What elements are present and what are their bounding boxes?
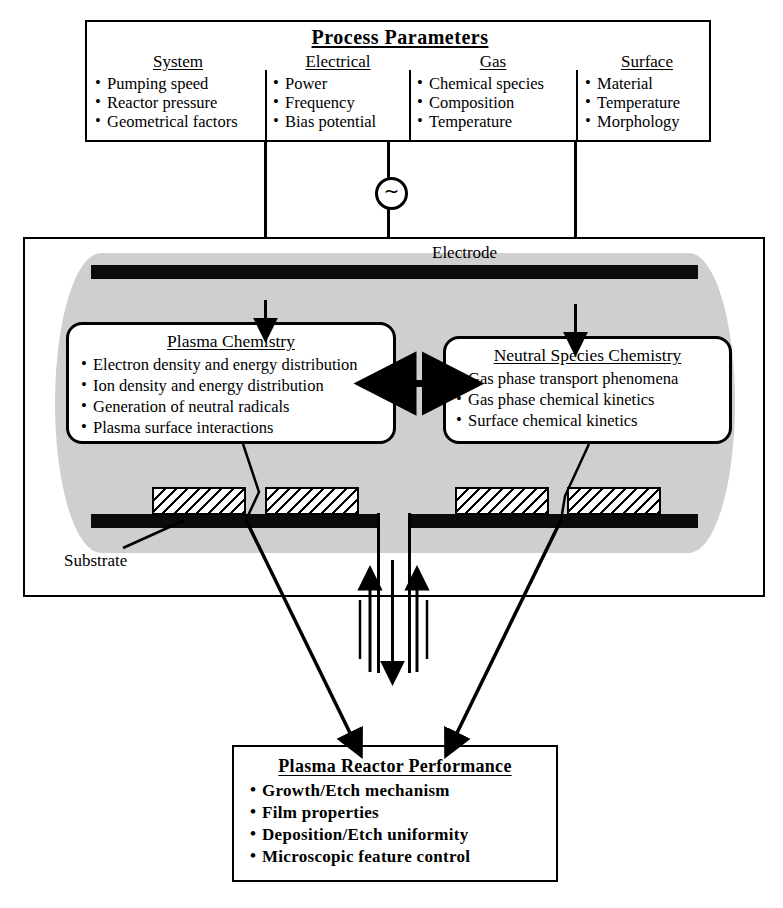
list-item: Temperature xyxy=(585,93,709,112)
list-item: Chemical species xyxy=(417,74,569,93)
pp-divider-3 xyxy=(576,70,578,142)
pp-column-heading: System xyxy=(95,52,261,72)
list-item: Electron density and energy distribution xyxy=(81,354,393,375)
pp-column-list: Chemical species Composition Temperature xyxy=(417,74,569,131)
gas-flow-up-arrow-right xyxy=(417,586,427,672)
process-parameters-title: Process Parameters xyxy=(87,26,713,49)
list-item: Geometrical factors xyxy=(95,112,261,131)
list-item: Morphology xyxy=(585,112,709,131)
bottom-electrode-left xyxy=(91,514,377,528)
list-item: Temperature xyxy=(417,112,569,131)
pp-divider-1 xyxy=(265,70,267,142)
list-item: Bias potential xyxy=(273,112,403,131)
list-item: Deposition/Etch uniformity xyxy=(250,824,556,846)
pp-divider-2 xyxy=(409,70,411,142)
power-feed-line-upper xyxy=(387,142,390,179)
ac-source-glyph: ~ xyxy=(378,179,405,206)
pp-column-list: Pumping speed Reactor pressure Geometric… xyxy=(95,74,261,131)
list-item: Pumping speed xyxy=(95,74,261,93)
list-item: Gas phase transport phenomena xyxy=(456,368,729,389)
pp-column-list: Material Temperature Morphology xyxy=(585,74,709,131)
plasma-reactor-performance-box: Plasma Reactor Performance Growth/Etch m… xyxy=(232,745,558,882)
list-item: Plasma surface interactions xyxy=(81,417,393,438)
pp-column-gas: Gas Chemical species Composition Tempera… xyxy=(417,52,569,131)
list-item: Microscopic feature control xyxy=(250,846,556,868)
gas-flow-up-arrow-left xyxy=(360,586,370,672)
process-parameters-box: Process Parameters System Pumping speed … xyxy=(85,20,711,142)
gas-channel-wall-right xyxy=(408,513,411,673)
list-item: Generation of neutral radicals xyxy=(81,396,393,417)
substrate-feature-block xyxy=(152,487,246,515)
list-item: Gas phase chemical kinetics xyxy=(456,389,729,410)
performance-list: Growth/Etch mechanism Film properties De… xyxy=(250,780,556,868)
list-item: Growth/Etch mechanism xyxy=(250,780,556,802)
neutral-species-chemistry-heading: Neutral Species Chemistry xyxy=(446,345,729,366)
pp-column-heading: Surface xyxy=(585,52,709,72)
list-item: Composition xyxy=(417,93,569,112)
list-item: Power xyxy=(273,74,403,93)
pp-column-electrical: Electrical Power Frequency Bias potentia… xyxy=(273,52,403,131)
plasma-chemistry-heading: Plasma Chemistry xyxy=(69,331,393,352)
pp-column-heading: Electrical xyxy=(273,52,403,72)
substrate-feature-block xyxy=(567,487,661,515)
list-item: Frequency xyxy=(273,93,403,112)
plasma-chemistry-box: Plasma Chemistry Electron density and en… xyxy=(66,322,396,444)
pp-column-surface: Surface Material Temperature Morphology xyxy=(585,52,709,131)
ac-source-icon: ~ xyxy=(375,177,408,210)
plasma-chemistry-list: Electron density and energy distribution… xyxy=(81,354,393,438)
substrate-feature-block xyxy=(265,487,359,515)
neutral-species-chemistry-box: Neutral Species Chemistry Gas phase tran… xyxy=(443,336,732,444)
pp-column-heading: Gas xyxy=(417,52,569,72)
bottom-electrode-right xyxy=(410,514,698,528)
pp-column-list: Power Frequency Bias potential xyxy=(273,74,403,131)
list-item: Reactor pressure xyxy=(95,93,261,112)
list-item: Film properties xyxy=(250,802,556,824)
top-electrode xyxy=(91,265,698,279)
neutral-species-chemistry-list: Gas phase transport phenomena Gas phase … xyxy=(456,368,729,431)
electrode-label: Electrode xyxy=(432,243,497,263)
diagram-canvas: Process Parameters System Pumping speed … xyxy=(0,0,783,908)
pp-column-system: System Pumping speed Reactor pressure Ge… xyxy=(95,52,261,131)
gas-channel-wall-left xyxy=(377,513,380,673)
substrate-feature-block xyxy=(455,487,549,515)
substrate-label: Substrate xyxy=(64,551,127,571)
performance-title: Plasma Reactor Performance xyxy=(234,756,556,777)
list-item: Material xyxy=(585,74,709,93)
list-item: Surface chemical kinetics xyxy=(456,410,729,431)
list-item: Ion density and energy distribution xyxy=(81,375,393,396)
